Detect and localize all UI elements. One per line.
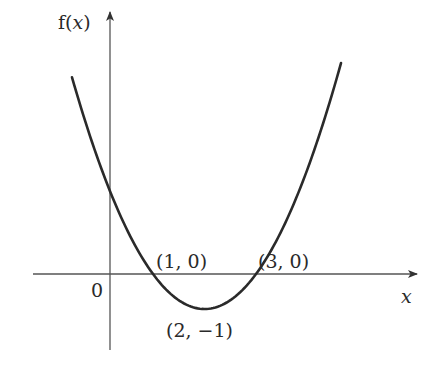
root-label-3: (3, 0): [258, 250, 309, 272]
y-axis-label: f(x): [58, 11, 91, 33]
origin-label: 0: [91, 279, 103, 301]
root-label-1: (1, 0): [156, 250, 207, 272]
vertex-label: (2, −1): [166, 319, 233, 341]
parabola-curve: [72, 63, 341, 309]
parabola-chart: f(x) x 0 (1, 0) (3, 0) (2, −1): [0, 0, 436, 372]
x-axis-label: x: [401, 285, 412, 307]
